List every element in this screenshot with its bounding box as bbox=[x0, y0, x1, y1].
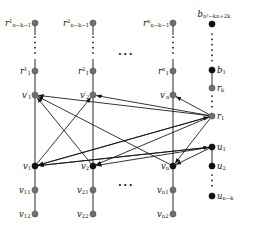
node-label-r-n-1: rn1 bbox=[158, 67, 169, 76]
node-b-top bbox=[209, 21, 215, 27]
node-v-11 bbox=[32, 187, 38, 193]
node-label-v-22: v22 bbox=[77, 210, 89, 219]
node-label-b-top: bn²−kn+2k bbox=[198, 10, 231, 19]
node-v-1-prime bbox=[32, 92, 38, 98]
node-label-r-2-1: r21 bbox=[78, 67, 89, 76]
node-label-v-1-prime: v′1 bbox=[22, 91, 31, 100]
node-label-b-1: b1 bbox=[217, 66, 226, 75]
node-r-1-1 bbox=[32, 68, 38, 74]
node-label-r-1-1: r11 bbox=[20, 67, 31, 76]
node-u-2 bbox=[209, 163, 215, 169]
node-label-v-11: v11 bbox=[19, 186, 31, 195]
node-label-v-n2: vn2 bbox=[157, 210, 169, 219]
node-label-r-2-top: r2n−k−1 bbox=[63, 19, 89, 28]
node-label-u-1: u1 bbox=[217, 143, 226, 152]
node-label-v-n: vn bbox=[161, 162, 169, 171]
node-label-u-2: u2 bbox=[217, 162, 226, 171]
arrow-group bbox=[37, 95, 210, 165]
arrow-r1-to-vnprime bbox=[176, 97, 209, 115]
node-v-n1 bbox=[170, 187, 176, 193]
node-label-r-1: r1 bbox=[217, 112, 224, 121]
node-label-v-12: v12 bbox=[19, 210, 31, 219]
node-r-2-top bbox=[90, 20, 96, 26]
arrow-v1-to-r1 bbox=[38, 117, 209, 165]
node-v-22 bbox=[90, 211, 96, 217]
node-v-2 bbox=[90, 163, 96, 169]
node-v-21 bbox=[90, 187, 96, 193]
node-u-1 bbox=[209, 144, 215, 150]
node-label-v-2: v2 bbox=[81, 162, 89, 171]
node-r-1 bbox=[209, 113, 215, 119]
ellipsis-bottom: ··· bbox=[118, 179, 134, 192]
node-v-2-prime bbox=[90, 92, 96, 98]
node-r-1-top bbox=[32, 20, 38, 26]
column-vdots-group bbox=[35, 23, 173, 71]
node-label-v-2-prime: v′2 bbox=[80, 91, 89, 100]
ellipsis-top: ··· bbox=[118, 48, 134, 61]
node-v-12 bbox=[32, 211, 38, 217]
vertical-chain-group bbox=[35, 70, 212, 214]
node-v-n-prime bbox=[170, 92, 176, 98]
node-r-2-1 bbox=[90, 68, 96, 74]
arrow-r1-to-v1prime bbox=[38, 95, 209, 115]
node-v-n2 bbox=[170, 211, 176, 217]
node-label-r-n-top: rnn−k−1 bbox=[143, 19, 169, 28]
node-label-v-1: v1 bbox=[23, 162, 31, 171]
node-r-k bbox=[209, 85, 215, 91]
node-label-u-n-k: un−k bbox=[217, 192, 233, 201]
node-label-v-n1: vn1 bbox=[157, 186, 169, 195]
node-r-n-1 bbox=[170, 68, 176, 74]
arrow-vn-to-v1prime bbox=[38, 97, 170, 165]
node-label-v-n-prime: v′n bbox=[160, 91, 169, 100]
node-b-1 bbox=[209, 67, 215, 73]
node-r-n-top bbox=[170, 20, 176, 26]
node-u-n-k bbox=[209, 193, 215, 199]
node-label-r-k: rk bbox=[217, 84, 224, 93]
node-v-1 bbox=[32, 163, 38, 169]
node-label-v-21: v21 bbox=[77, 186, 89, 195]
graph-figure: r1n−k−1r11v′1v1v11v12r2n−k−1r21v′2v2v21v… bbox=[0, 0, 257, 229]
arrow-v1-to-u1 bbox=[38, 147, 209, 165]
node-label-r-1-top: r1n−k−1 bbox=[5, 19, 31, 28]
node-v-n bbox=[170, 163, 176, 169]
